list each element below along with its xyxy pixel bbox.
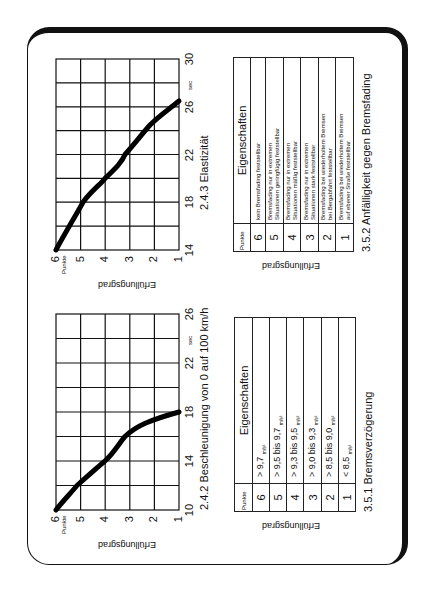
y-axis-title: Erfüllungsgrad <box>98 280 156 290</box>
table-bremsverzoegerung: Punkte Eigenschaften 6> 9,7 m/s² 5> 9,5 … <box>234 317 356 512</box>
table-row: 5Bremsfading nur in extremenSituationen … <box>266 58 284 252</box>
table-row: 6kein Bremsfading feststellbar <box>251 58 266 252</box>
chart-elastizitaet-plot <box>56 59 179 250</box>
table-row: 4Bremsfading nur in extremenSituationen … <box>283 58 301 252</box>
table-row: 3> 9,0 bis 9,3 m/s² <box>304 318 321 512</box>
y-unit: Punkte <box>61 515 67 534</box>
header-punkte: Punkte <box>235 484 253 512</box>
cell-eigenschaft: Bremsfading nur in extremenSituationen g… <box>266 58 284 224</box>
curve-elastizitaet <box>56 101 179 250</box>
x-tick: 14 <box>183 238 195 262</box>
table-row: 6> 9,7 m/s² <box>253 318 270 512</box>
table-row: 3Bremsfading nur in extremenSituationen … <box>301 58 319 252</box>
x-tick: 18 <box>183 190 195 214</box>
chart-caption: 2.4.3 Elastizität <box>198 135 210 210</box>
cell-eigenschaft: > 9,0 bis 9,3 m/s² <box>304 318 321 484</box>
y-tick: 6 <box>49 256 61 272</box>
cell-eigenschaft: Bremsfading bei wiederholtem Bremsenbei … <box>318 58 336 224</box>
y-tick: 2 <box>147 256 159 272</box>
rotated-page: 6 Punkte 5 4 3 2 1 Erfüllungsgrad 10 14 … <box>0 0 429 595</box>
table-row: 5> 9,5 bis 9,7 m/s² <box>270 318 287 512</box>
chart-caption: 2.4.2 Beschleunigung von 0 auf 100 km/h <box>198 308 210 510</box>
table-y-title: Erfüllungsgrad <box>262 521 320 531</box>
y-tick: 2 <box>147 516 159 532</box>
table-row: 1Bremsfading bei wiederholtem Bremsenauf… <box>336 58 354 252</box>
y-tick: 5 <box>74 516 86 532</box>
y-tick: 6 <box>49 516 61 532</box>
x-tick: 14 <box>183 449 195 473</box>
y-unit: Punkte <box>61 255 67 274</box>
cell-punkte: 5 <box>270 484 287 512</box>
cell-punkte: 6 <box>251 224 266 252</box>
x-tick: 10 <box>183 498 195 522</box>
header-eigenschaften: Eigenschaften <box>234 58 251 224</box>
cell-eigenschaft: > 9,3 bis 9,5 m/s² <box>287 318 304 484</box>
header-eigenschaften: Eigenschaften <box>235 318 253 484</box>
table-bremsfading: Punkte Eigenschaften 6kein Bremsfading f… <box>233 57 354 252</box>
cell-eigenschaft: > 9,5 bis 9,7 m/s² <box>270 318 287 484</box>
x-tick: 26 <box>183 302 195 326</box>
x-tick: 18 <box>183 400 195 424</box>
cell-punkte: 2 <box>321 484 338 512</box>
y-tick: 3 <box>123 256 135 272</box>
table-caption: 3.5.2 Anfälligkeit gegen Bremsfading <box>360 73 372 252</box>
cell-punkte: 1 <box>338 484 355 512</box>
y-tick: 4 <box>98 516 110 532</box>
table-row: 2> 8,5 bis 9,0 m/s² <box>321 318 338 512</box>
table-y-title: Erfüllungsgrad <box>262 261 320 271</box>
table-row: 1< 8,5 m/s² <box>338 318 355 512</box>
table-row: 4> 9,3 bis 9,5 m/s² <box>287 318 304 512</box>
table-caption: 3.5.1 Bremsverzögerung <box>362 392 374 512</box>
table-row: 2Bremsfading bei wiederholtem Bremsenbei… <box>318 58 336 252</box>
cell-punkte: 3 <box>301 224 319 252</box>
cell-punkte: 5 <box>266 224 284 252</box>
cell-punkte: 6 <box>253 484 270 512</box>
x-tick: 22 <box>183 351 195 375</box>
x-tick: 26 <box>183 95 195 119</box>
header-punkte: Punkte <box>234 224 251 252</box>
cell-punkte: 4 <box>287 484 304 512</box>
x-tick: 30 <box>183 47 195 71</box>
cell-punkte: 4 <box>283 224 301 252</box>
y-tick: 5 <box>74 256 86 272</box>
cell-eigenschaft: Bremsfading nur in extremenSituationen m… <box>283 58 301 224</box>
cell-eigenschaft: Bremsfading nur in extremenSituationen s… <box>301 58 319 224</box>
x-unit: sec <box>187 336 193 345</box>
x-tick: 22 <box>183 143 195 167</box>
chart-beschleunigung-plot <box>56 314 179 510</box>
cell-eigenschaft: < 8,5 m/s² <box>338 318 355 484</box>
cell-eigenschaft: Bremsfading bei wiederholtem Bremsenauf … <box>336 58 354 224</box>
cell-eigenschaft: kein Bremsfading feststellbar <box>251 58 266 224</box>
cell-punkte: 3 <box>304 484 321 512</box>
cell-punkte: 2 <box>318 224 336 252</box>
y-tick: 3 <box>123 516 135 532</box>
y-tick: 4 <box>98 256 110 272</box>
cell-punkte: 1 <box>336 224 354 252</box>
cell-eigenschaft: > 9,7 m/s² <box>253 318 270 484</box>
x-unit: sec <box>187 81 193 90</box>
chart-elastizitaet: 6 Punkte 5 4 3 2 1 Erfüllungsgrad 14 18 … <box>56 59 179 250</box>
y-axis-title: Erfüllungsgrad <box>98 540 156 550</box>
cell-eigenschaft: > 8,5 bis 9,0 m/s² <box>321 318 338 484</box>
chart-beschleunigung: 6 Punkte 5 4 3 2 1 Erfüllungsgrad 10 14 … <box>56 314 179 510</box>
